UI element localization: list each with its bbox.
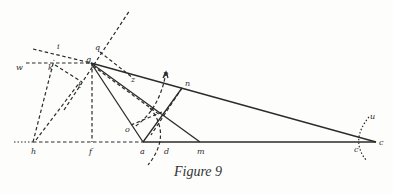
line-an [143,88,182,142]
label-f: f [88,147,94,156]
label-c: c [379,138,384,147]
label-g: g [86,55,91,64]
label-h: h [31,147,36,156]
line-gm [91,63,200,142]
line-kt [55,65,82,82]
line-through-g-diagonal [64,10,130,110]
label-p: p [163,69,168,78]
label-i: i [57,42,60,51]
label-o: o [125,125,130,134]
label-z: z [130,75,136,84]
line-ig [33,49,91,63]
label-m: m [197,147,205,156]
line-h-to-t [36,82,80,140]
label-n: n [185,79,190,88]
label-u: u [370,112,375,121]
label-a: a [140,147,145,156]
label-c-arc: c [354,145,359,154]
label-d: d [164,147,169,156]
label-w: w [16,63,23,72]
label-q: q [95,43,100,52]
label-k-top: k [48,63,53,72]
label-t: t [78,81,82,90]
figure-caption: Figure 9 [174,164,222,180]
line-n-dashed [151,88,182,135]
